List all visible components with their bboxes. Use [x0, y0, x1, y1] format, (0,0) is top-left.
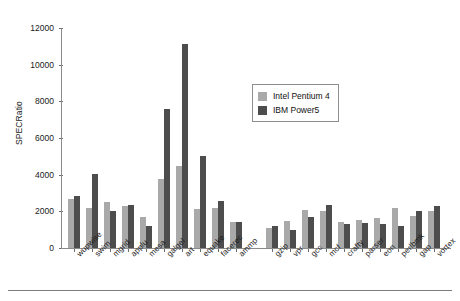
spec-ratio-bar-chart: SPECRatio 020004000600080001000012000 wu…	[0, 0, 460, 301]
bar-group	[428, 28, 440, 248]
chart-legend: Intel Pentium 4IBM Power5	[252, 84, 339, 122]
y-tick-label: 6000	[8, 133, 54, 143]
bar-group	[284, 28, 296, 248]
bar	[200, 156, 206, 248]
bar-group	[86, 28, 98, 248]
bottom-divider	[8, 290, 452, 291]
legend-swatch-icon	[258, 106, 267, 115]
bar	[164, 109, 170, 248]
bar	[308, 217, 314, 248]
bar	[344, 224, 350, 248]
y-axis-title: SPECRatio	[14, 78, 24, 168]
bar-group	[338, 28, 350, 248]
bar-group	[266, 28, 278, 248]
bar-group	[122, 28, 134, 248]
bar-group	[212, 28, 224, 248]
bar-group	[104, 28, 116, 248]
bar	[434, 206, 440, 248]
bar-group	[140, 28, 152, 248]
bar	[326, 205, 332, 248]
y-tick-label: 12000	[8, 23, 54, 33]
bar-group	[176, 28, 188, 248]
legend-item: IBM Power5	[258, 103, 330, 117]
y-tick-label: 4000	[8, 170, 54, 180]
bar	[290, 230, 296, 248]
legend-swatch-icon	[258, 92, 267, 101]
legend-label: Intel Pentium 4	[273, 91, 330, 101]
plot-area	[62, 28, 451, 248]
bar-group	[158, 28, 170, 248]
y-tick-label: 8000	[8, 96, 54, 106]
bar-group	[374, 28, 386, 248]
bar	[398, 226, 404, 248]
bar-group	[68, 28, 80, 248]
bar	[74, 196, 80, 248]
y-tick-label: 0	[8, 243, 54, 253]
bar	[272, 226, 278, 248]
bar-group	[356, 28, 368, 248]
bar-group	[194, 28, 206, 248]
bar	[182, 44, 188, 248]
bar-group	[302, 28, 314, 248]
legend-item: Intel Pentium 4	[258, 89, 330, 103]
bar-group	[320, 28, 332, 248]
bar-group	[230, 28, 242, 248]
y-tick-label: 2000	[8, 206, 54, 216]
bar-group	[248, 28, 260, 248]
bar-group	[410, 28, 422, 248]
legend-label: IBM Power5	[273, 105, 319, 115]
y-tick-label: 10000	[8, 60, 54, 70]
bar-group	[392, 28, 404, 248]
